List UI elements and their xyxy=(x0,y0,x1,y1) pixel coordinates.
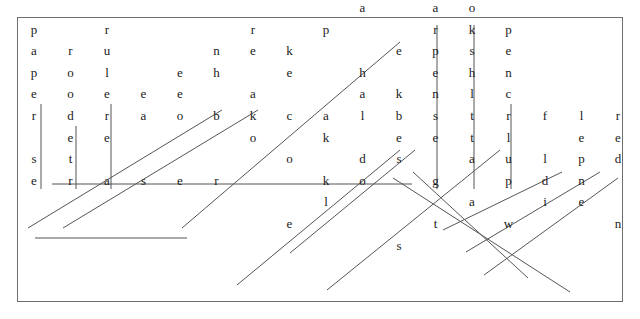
grid-letter: c xyxy=(281,107,299,125)
grid-letter: k xyxy=(317,172,335,190)
grid-letter: d xyxy=(536,172,554,190)
grid-letter: r xyxy=(500,107,518,125)
grid-letter: k xyxy=(317,129,335,147)
grid-letter: s xyxy=(390,150,408,168)
grid-letter: e xyxy=(171,64,189,82)
grid-letter: f xyxy=(536,107,554,125)
grid-letter: s xyxy=(427,107,445,125)
grid-letter: e xyxy=(427,129,445,147)
grid-letter: a xyxy=(463,193,481,211)
grid-letter: l xyxy=(317,193,335,211)
grid-letter: a xyxy=(244,85,262,103)
grid-letter: a xyxy=(98,172,116,190)
grid-letter: n xyxy=(609,215,627,233)
grid-letter: h xyxy=(354,64,372,82)
grid-letter: o xyxy=(281,150,299,168)
grid-letter: n xyxy=(500,64,518,82)
grid-letter: e xyxy=(244,42,262,60)
grid-letter: n xyxy=(427,85,445,103)
grid-letter: e xyxy=(98,85,116,103)
grid-letter: r xyxy=(244,21,262,39)
grid-letter: e xyxy=(25,172,43,190)
grid-letter: i xyxy=(536,193,554,211)
grid-letter: e xyxy=(427,64,445,82)
grid-letter: d xyxy=(62,107,80,125)
grid-letter: s xyxy=(463,42,481,60)
grid-letter: r xyxy=(98,21,116,39)
grid-letter: e xyxy=(62,129,80,147)
grid-letter: s xyxy=(25,150,43,168)
grid-letter: k xyxy=(390,85,408,103)
grid-letter: a xyxy=(135,107,153,125)
grid-letter: c xyxy=(500,85,518,103)
grid-letter: e xyxy=(390,129,408,147)
grid-letter: e xyxy=(573,129,591,147)
grid-letter: o xyxy=(463,0,481,17)
grid-letter: l xyxy=(573,107,591,125)
grid-letter: e xyxy=(135,85,153,103)
grid-letter: k xyxy=(244,107,262,125)
grid-letter: p xyxy=(25,21,43,39)
grid-letter: d xyxy=(609,150,627,168)
grid-letter: o xyxy=(244,129,262,147)
grid-letter: t xyxy=(427,215,445,233)
grid-letter: r xyxy=(62,172,80,190)
grid-letter: r xyxy=(62,42,80,60)
grid-letter: p xyxy=(500,172,518,190)
grid-letter: p xyxy=(25,64,43,82)
grid-letter: a xyxy=(354,0,372,17)
grid-letter: p xyxy=(427,42,445,60)
grid-letter: e xyxy=(171,85,189,103)
grid-letter: e xyxy=(500,42,518,60)
grid-letter: g xyxy=(427,172,445,190)
grid-letter: b xyxy=(390,107,408,125)
grid-letter: n xyxy=(573,172,591,190)
grid-letter: r xyxy=(427,21,445,39)
grid-letter: e xyxy=(281,64,299,82)
grid-letter: r xyxy=(98,107,116,125)
grid-letter: e xyxy=(25,85,43,103)
grid-letter: a xyxy=(427,0,445,17)
grid-letter: a xyxy=(354,85,372,103)
grid-letter: o xyxy=(171,107,189,125)
grid-letter: a xyxy=(317,107,335,125)
word-search-canvas: sbkhoaaoprrprkparunekepsepolehehehneoeee… xyxy=(0,0,640,319)
grid-letter: e xyxy=(171,172,189,190)
grid-letter: h xyxy=(208,64,226,82)
grid-letter: a xyxy=(25,42,43,60)
grid-letter: d xyxy=(354,150,372,168)
grid-letter: e xyxy=(281,215,299,233)
grid-letter: k xyxy=(281,42,299,60)
grid-letter: l xyxy=(536,150,554,168)
grid-letter: o xyxy=(62,64,80,82)
grid-letter: o xyxy=(354,172,372,190)
grid-letter: o xyxy=(62,85,80,103)
grid-letter: p xyxy=(573,150,591,168)
grid-letter: p xyxy=(317,21,335,39)
grid-letter: r xyxy=(609,107,627,125)
grid-letter: r xyxy=(25,107,43,125)
grid-letter: e xyxy=(390,42,408,60)
grid-letter: n xyxy=(208,42,226,60)
grid-letter: s xyxy=(390,237,408,255)
grid-letter: t xyxy=(463,129,481,147)
grid-letter: e xyxy=(98,129,116,147)
grid-letter: u xyxy=(98,42,116,60)
grid-letter: e xyxy=(609,129,627,147)
grid-letter: l xyxy=(354,107,372,125)
grid-letter: t xyxy=(463,107,481,125)
grid-letter: u xyxy=(500,150,518,168)
letter-grid-layer: sbkhoaaoprrprkparunekepsepolehehehneoeee… xyxy=(0,0,640,319)
grid-letter: t xyxy=(62,150,80,168)
grid-letter: l xyxy=(98,64,116,82)
grid-letter: w xyxy=(500,215,518,233)
grid-letter: l xyxy=(500,129,518,147)
grid-letter: b xyxy=(208,107,226,125)
grid-letter: k xyxy=(463,21,481,39)
grid-letter: s xyxy=(135,172,153,190)
grid-letter: e xyxy=(573,193,591,211)
grid-letter: r xyxy=(208,172,226,190)
grid-letter: p xyxy=(500,21,518,39)
grid-letter: a xyxy=(463,150,481,168)
grid-letter: l xyxy=(463,85,481,103)
